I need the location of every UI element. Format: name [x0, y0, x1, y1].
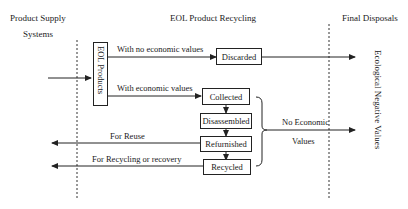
- node-recycled-label: Recycled: [211, 162, 243, 172]
- node-disassembled: Disassembled: [200, 113, 252, 129]
- header-product-supply: Product Supply: [3, 13, 73, 24]
- node-disassembled-label: Disassembled: [202, 116, 249, 126]
- header-eol-recycling: EOL Product Recycling: [168, 13, 258, 24]
- label-no-economic-values: With no economic values: [117, 44, 203, 54]
- node-eol-products-label: EOL Products: [96, 46, 106, 94]
- label-economic-values: With economic values: [117, 83, 193, 93]
- node-refurnished: Refurnished: [200, 136, 252, 152]
- node-collected-label: Collected: [210, 92, 243, 102]
- label-no-economic: No Economic: [282, 117, 329, 127]
- header-final-disposals: Final Disposals: [335, 13, 405, 24]
- node-recycled: Recycled: [203, 159, 251, 175]
- header-product-supply-line2: Systems: [3, 29, 73, 40]
- label-no-economic-values-line2: Values: [292, 136, 315, 146]
- node-collected: Collected: [202, 88, 250, 105]
- eol-recycling-diagram: Product Supply Systems EOL Product Recyc…: [0, 0, 408, 209]
- node-discarded: Discarded: [216, 48, 262, 65]
- label-for-reuse: For Reuse: [110, 131, 145, 141]
- label-ecological-negative-values: Ecological Negative Values: [373, 50, 383, 149]
- node-refurnished-label: Refurnished: [205, 139, 247, 149]
- label-for-recycling: For Recycling or recovery: [92, 154, 181, 164]
- node-discarded-label: Discarded: [222, 52, 256, 62]
